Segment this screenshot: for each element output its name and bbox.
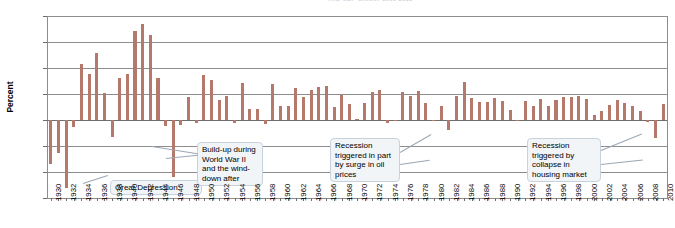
- bar-1963: [302, 97, 305, 120]
- x-tick-label-1932: 1932: [69, 184, 78, 201]
- bar-1959: [271, 84, 274, 120]
- bar-1995: [547, 106, 550, 120]
- bar-1935: [88, 74, 91, 120]
- y-tick-mark: [43, 94, 47, 95]
- bar-1954: [233, 120, 236, 123]
- x-tick-mark: [81, 198, 82, 201]
- y-tick-mark: [43, 146, 47, 147]
- bar-1933: [72, 120, 75, 127]
- bar-2008: [646, 120, 649, 122]
- x-tick-label-2002: 2002: [605, 184, 614, 201]
- x-tick-label-1964: 1964: [314, 184, 323, 201]
- x-tick-label-1934: 1934: [84, 184, 93, 201]
- bar-1955: [241, 83, 244, 120]
- gridline: [47, 42, 667, 43]
- bar-2005: [623, 103, 626, 120]
- y-tick-mark: [43, 16, 47, 17]
- x-tick-label-1976: 1976: [406, 184, 415, 201]
- x-tick-label-1962: 1962: [299, 184, 308, 201]
- bar-2004: [616, 100, 619, 120]
- bar-2006: [631, 106, 634, 120]
- x-tick-mark: [127, 198, 128, 201]
- bar-1938: [111, 120, 114, 137]
- x-tick-label-1986: 1986: [482, 184, 491, 201]
- bar-1936: [95, 53, 98, 120]
- x-tick-mark: [204, 198, 205, 201]
- x-tick-mark: [296, 198, 297, 201]
- bar-1968: [340, 95, 343, 120]
- bar-1937: [103, 93, 106, 120]
- bar-1951: [210, 80, 213, 120]
- bar-1985: [470, 98, 473, 120]
- bar-1961: [287, 106, 290, 120]
- x-tick-mark: [510, 198, 511, 201]
- bar-1949: [195, 120, 198, 123]
- bar-1943: [149, 35, 152, 120]
- bar-1934: [80, 64, 83, 120]
- bar-1957: [256, 109, 259, 120]
- x-tick-mark: [388, 198, 389, 201]
- x-tick-label-1982: 1982: [452, 184, 461, 201]
- y-tick-mark: [43, 42, 47, 43]
- bar-1962: [294, 88, 297, 120]
- gridline: [47, 16, 667, 17]
- x-tick-label-1960: 1960: [283, 184, 292, 201]
- x-tick-label-1978: 1978: [421, 184, 430, 201]
- bar-1977: [409, 96, 412, 120]
- bar-1944: [156, 78, 159, 120]
- gridline: [47, 68, 667, 69]
- x-tick-mark: [189, 198, 190, 201]
- bar-1994: [539, 99, 542, 120]
- x-tick-mark: [173, 198, 174, 201]
- bar-1952: [218, 100, 221, 120]
- bar-1974: [386, 120, 389, 123]
- chart-title: Real GDP Growth, 1930-2010: [240, 0, 500, 2]
- gridline: [47, 94, 667, 95]
- annotation-housing-recession: Recession triggered by collapse in housi…: [527, 138, 601, 182]
- x-tick-mark: [143, 198, 144, 201]
- bar-1965: [317, 87, 320, 120]
- bar-1950: [202, 75, 205, 120]
- bar-2009: [654, 120, 657, 138]
- x-tick-label-1974: 1974: [391, 184, 400, 201]
- x-tick-label-1996: 1996: [559, 184, 568, 201]
- bar-1997: [562, 97, 565, 120]
- x-tick-mark: [250, 198, 251, 201]
- bar-1978: [417, 91, 420, 120]
- x-tick-mark: [479, 198, 480, 201]
- bar-1958: [264, 120, 267, 124]
- bar-1982: [447, 120, 450, 130]
- annotation-oil-price-recession: Recession triggered in part by surge in …: [330, 138, 400, 182]
- x-tick-label-1946: 1946: [176, 184, 185, 201]
- bar-1984: [463, 82, 466, 120]
- x-tick-mark: [357, 198, 358, 201]
- bar-1945: [164, 120, 167, 126]
- x-tick-label-1972: 1972: [375, 184, 384, 201]
- bar-2007: [639, 111, 642, 120]
- x-tick-mark: [464, 198, 465, 201]
- x-tick-label-1930: 1930: [54, 184, 63, 201]
- y-tick-mark: [43, 68, 47, 69]
- bar-1973: [378, 90, 381, 120]
- bar-1993: [532, 106, 535, 120]
- bar-1932: [65, 120, 68, 188]
- bar-1940: [126, 74, 129, 120]
- plot-border-right: [667, 16, 668, 199]
- bar-1953: [225, 96, 228, 120]
- x-tick-mark: [219, 198, 220, 201]
- x-tick-label-1968: 1968: [345, 184, 354, 201]
- bar-2000: [585, 99, 588, 120]
- x-tick-label-2004: 2004: [620, 184, 629, 201]
- bar-2003: [608, 105, 611, 120]
- bar-1939: [118, 78, 121, 120]
- x-tick-label-2008: 2008: [651, 184, 660, 201]
- x-tick-label-1994: 1994: [544, 184, 553, 201]
- bar-2010: [662, 104, 665, 120]
- x-tick-mark: [66, 198, 67, 201]
- bar-1988: [493, 98, 496, 120]
- bar-2002: [600, 111, 603, 120]
- x-tick-mark: [265, 198, 266, 201]
- x-tick-label-1938: 1938: [115, 184, 124, 201]
- bar-1972: [371, 92, 374, 120]
- bar-1947: [179, 120, 182, 125]
